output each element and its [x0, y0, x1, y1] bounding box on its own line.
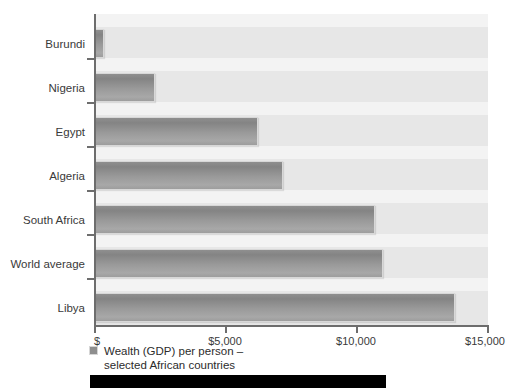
x-axis-label-15000: $15,000 — [465, 335, 505, 347]
background-band — [95, 14, 488, 27]
bar-burundi[interactable] — [95, 29, 104, 58]
bar-row — [95, 73, 488, 102]
y-axis-label-south-africa: South Africa — [9, 214, 95, 226]
bar-row — [95, 293, 488, 322]
bar-chart-figure: Burundi Nigeria Egypt Algeria South Afri… — [0, 0, 528, 389]
background-band — [95, 146, 488, 159]
y-axis-label-world-average: World average — [9, 258, 95, 270]
bar-row — [95, 117, 488, 146]
bar-row — [95, 161, 488, 190]
legend-label: Wealth (GDP) per person – selected Afric… — [104, 344, 243, 372]
footer-black-bar — [90, 375, 386, 388]
x-axis-tick — [94, 326, 96, 333]
bar-row — [95, 249, 488, 278]
y-axis-label-burundi: Burundi — [9, 38, 95, 50]
y-axis-label-egypt: Egypt — [9, 126, 95, 138]
bar-nigeria[interactable] — [95, 73, 155, 102]
bar-row — [95, 29, 488, 58]
y-axis-label-nigeria: Nigeria — [9, 82, 95, 94]
background-band — [95, 102, 488, 115]
bar-world-average[interactable] — [95, 249, 383, 278]
x-axis-line — [94, 325, 489, 327]
y-axis-label-libya: Libya — [9, 302, 95, 314]
legend-swatch-icon — [89, 346, 98, 355]
chart-legend: Wealth (GDP) per person – selected Afric… — [89, 344, 243, 372]
y-axis-label-algeria: Algeria — [9, 170, 95, 182]
x-axis-tick — [487, 326, 489, 333]
background-band — [95, 278, 488, 291]
bar-libya[interactable] — [95, 293, 455, 322]
background-band — [95, 190, 488, 203]
bar-south-africa[interactable] — [95, 205, 375, 234]
bar-egypt[interactable] — [95, 117, 258, 146]
background-band — [95, 234, 488, 247]
plot-area — [95, 14, 488, 325]
x-axis-tick — [356, 326, 358, 333]
legend-label-line1: Wealth (GDP) per person – — [104, 345, 243, 357]
x-axis-tick — [225, 326, 227, 333]
bar-row — [95, 205, 488, 234]
background-band — [95, 58, 488, 71]
legend-label-line2: selected African countries — [104, 359, 235, 371]
y-axis-labels: Burundi Nigeria Egypt Algeria South Afri… — [0, 0, 95, 389]
x-axis-label-10000: $10,000 — [336, 335, 376, 347]
bar-algeria[interactable] — [95, 161, 283, 190]
